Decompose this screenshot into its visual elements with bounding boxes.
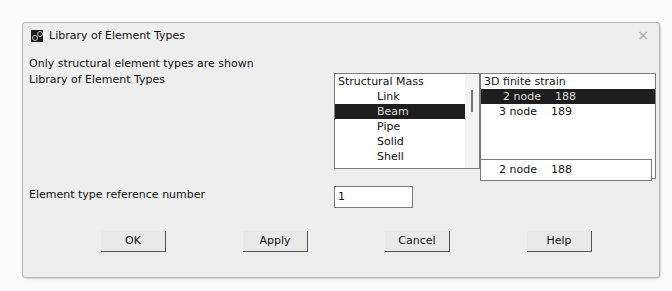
scrollbar-thumb[interactable] — [471, 90, 473, 112]
list-item[interactable]: Solid — [335, 134, 479, 149]
help-button[interactable]: Help — [527, 231, 592, 252]
library-of-element-types-dialog: Library of Element Types × Only structur… — [22, 22, 660, 278]
apply-button[interactable]: Apply — [243, 231, 308, 252]
category-listbox[interactable]: Structural Mass Link Beam Pipe Solid She… — [334, 73, 480, 169]
app-icon — [31, 30, 43, 42]
library-label: Library of Element Types — [29, 73, 165, 86]
close-icon[interactable]: × — [637, 27, 649, 43]
selected-type-field[interactable]: 2 node188 — [480, 159, 652, 181]
list-header: 3D finite strain — [481, 74, 655, 89]
scrollbar[interactable] — [465, 74, 479, 168]
ok-button[interactable]: OK — [101, 231, 166, 252]
cancel-button[interactable]: Cancel — [385, 231, 450, 252]
info-text: Only structural element types are shown — [29, 57, 254, 70]
list-item[interactable]: 3 node189 — [481, 104, 655, 119]
list-item[interactable]: Pipe — [335, 119, 479, 134]
list-item-selected[interactable]: Beam — [335, 104, 479, 119]
ref-number-input[interactable]: 1 — [334, 186, 413, 208]
ref-number-label: Element type reference number — [29, 188, 205, 201]
title-bar[interactable]: Library of Element Types × — [23, 23, 659, 47]
list-item[interactable]: Structural Mass — [335, 74, 479, 89]
list-item[interactable]: Shell — [335, 149, 479, 164]
list-item-selected[interactable]: 2 node188 — [481, 89, 655, 104]
window-title: Library of Element Types — [49, 29, 185, 42]
list-item[interactable]: Link — [335, 89, 479, 104]
